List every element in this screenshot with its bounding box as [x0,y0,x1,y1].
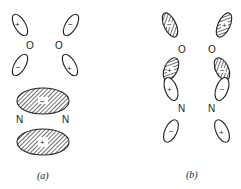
orbital-lobe [9,12,31,38]
caption-a: (a) [37,170,49,182]
atom-label: N [208,103,215,114]
atom-label: O [208,44,216,55]
lobe-sign: − [68,20,73,29]
panel-a-oxygen-left: O + − [9,12,34,78]
atom-label: N [62,114,69,125]
lobe-sign: − [220,66,225,75]
lobe-sign: + [40,138,45,147]
lobe-sign: + [219,128,224,137]
orbital-diagram: O + − O − + − N N + (a) [0,0,241,189]
lobe-sign: − [40,97,45,106]
lobe-sign: − [167,20,172,29]
panel-a: O + − O − + − N N + (a) [9,12,82,182]
lobe-sign: + [167,66,172,75]
lobe-sign: + [222,21,227,30]
lobe-sign: + [167,85,172,94]
lobe-sign: − [220,85,225,94]
panel-b: − O + + N − + O − − N + (b) [159,11,235,181]
atom-label: N [178,103,185,114]
lobe-sign: + [15,20,20,29]
atom-label: O [55,40,63,51]
lobe-sign: − [16,63,21,72]
lobe-sign: − [169,127,174,136]
panel-b-left-chain: − O + + N − [159,11,186,145]
caption-b: (b) [186,169,198,181]
atom-label: O [26,40,34,51]
atom-label: O [178,44,186,55]
panel-a-oxygen-right: O − + [55,12,82,78]
panel-a-upper-bond-lobe: − [17,88,69,114]
panel-a-lower-bond-lobe: + [17,129,69,155]
lobe-sign: + [67,64,72,73]
atom-label: N [16,114,23,125]
panel-b-right-chain: + O − − N + [208,11,235,145]
